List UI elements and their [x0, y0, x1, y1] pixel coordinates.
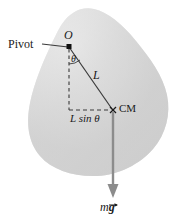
length-L-label: L: [93, 69, 100, 81]
physics-diagram-figure: Pivot O θ L L sin θ CM mg: [0, 0, 177, 223]
angle-theta-label: θ: [71, 54, 76, 64]
pivot-point-marker: [67, 44, 72, 49]
weight-force-label: mg: [100, 201, 115, 213]
vector-arrow-icon: [109, 201, 118, 207]
gravity-vector-symbol: g: [109, 201, 115, 213]
origin-point-label: O: [64, 29, 73, 41]
horizontal-distance-label: L sin θ: [70, 113, 100, 124]
mass-symbol: m: [100, 200, 109, 214]
pivot-label: Pivot: [8, 38, 33, 50]
center-of-mass-label: CM: [119, 103, 136, 114]
rigid-body-sheen: [28, 8, 168, 176]
